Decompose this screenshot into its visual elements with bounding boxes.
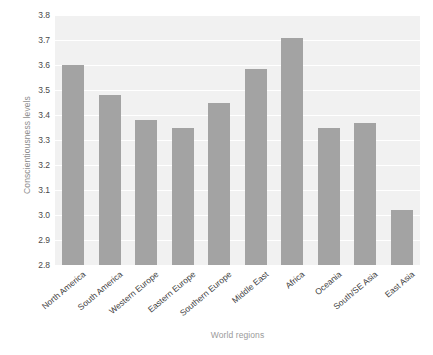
- bar-series: [55, 15, 420, 265]
- bar: [99, 95, 121, 265]
- y-axis-tick-label: 2.9: [22, 235, 50, 245]
- bar: [391, 210, 413, 265]
- bar: [354, 123, 376, 266]
- y-axis-tick-label: 3.2: [22, 160, 50, 170]
- bar: [62, 65, 84, 265]
- x-axis-tick-label: East Asia: [341, 269, 416, 335]
- y-axis-tick-label: 3.1: [22, 185, 50, 195]
- y-axis-tick-label: 3.7: [22, 35, 50, 45]
- bar: [281, 38, 303, 266]
- y-axis-tick-label: 3.4: [22, 110, 50, 120]
- y-axis-tick-label: 3.0: [22, 210, 50, 220]
- bar: [245, 69, 267, 265]
- y-axis-tick-label: 3.8: [22, 10, 50, 20]
- bar: [172, 128, 194, 266]
- x-axis-title: World regions: [55, 330, 420, 340]
- y-axis-tick-label: 3.5: [22, 85, 50, 95]
- bar-chart-figure: Conscientiousness levels 2.82.93.03.13.2…: [0, 0, 433, 355]
- y-axis-tick-label: 3.6: [22, 60, 50, 70]
- bar: [135, 120, 157, 265]
- y-axis-tick-label: 2.8: [22, 260, 50, 270]
- bar: [318, 128, 340, 266]
- bar: [208, 103, 230, 266]
- plot-area: [55, 15, 420, 265]
- x-axis-tick-labels: North AmericaSouth AmericaWestern Europe…: [55, 265, 420, 325]
- y-axis-tick-label: 3.3: [22, 135, 50, 145]
- y-axis-tick-labels: 2.82.93.03.13.23.33.43.53.63.73.8: [22, 15, 50, 265]
